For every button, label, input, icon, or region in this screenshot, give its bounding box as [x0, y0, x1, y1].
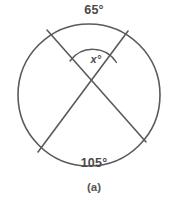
circle-shape	[18, 24, 160, 166]
figure-caption: (a)	[0, 182, 188, 194]
arc-measure-top-label: 65°	[0, 4, 188, 17]
chord-upper-right-to-lower-left	[38, 31, 128, 152]
unknown-angle-label: x°	[2, 54, 188, 65]
arc-measure-bottom-label: 105°	[0, 157, 188, 170]
geometry-canvas	[0, 0, 188, 201]
geometry-figure: 65° x° 105° (a)	[0, 0, 188, 201]
chord-upper-left-to-lower-right	[47, 30, 146, 142]
